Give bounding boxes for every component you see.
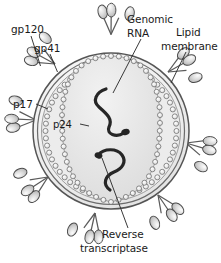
label-genomic-rna-line1: Genomic: [127, 13, 173, 25]
p24-bead: [156, 144, 161, 149]
leader-gp41: [50, 54, 58, 72]
p24-bead: [94, 194, 99, 199]
p24-bead: [153, 159, 158, 164]
p24-bead: [61, 144, 66, 149]
p24-bead: [138, 63, 143, 68]
p24-bead: [86, 59, 91, 64]
p24-bead: [43, 128, 48, 133]
p24-bead: [101, 197, 106, 202]
p24-bead: [156, 97, 161, 102]
p24-bead: [174, 128, 179, 133]
p24-bead: [60, 136, 65, 141]
p24-bead: [69, 75, 74, 80]
p24-bead: [93, 56, 98, 61]
p24-bead: [47, 107, 52, 112]
hiv-virion-diagram: gp120 gp41 p17 p24 Genomic RNA Lipid mem…: [0, 0, 221, 263]
p24-bead: [164, 94, 169, 99]
p24-bead: [57, 88, 62, 93]
p24-bead: [130, 191, 135, 196]
p24-bead: [43, 136, 48, 141]
p24-bead: [124, 56, 129, 61]
p24-bead: [79, 63, 84, 68]
p24-bead: [67, 167, 72, 172]
p24-bead: [47, 150, 52, 155]
p24-bead: [60, 105, 65, 110]
p24-bead: [170, 150, 175, 155]
p24-bead: [154, 89, 159, 94]
p24-bead: [172, 143, 177, 148]
p24-bead: [167, 157, 172, 162]
p24-bead: [157, 136, 162, 141]
p24-bead: [157, 120, 162, 125]
p24-bead: [170, 107, 175, 112]
p24-bead: [172, 114, 177, 119]
p24-bead: [137, 186, 142, 191]
p24-bead: [45, 114, 50, 119]
label-lipid-membrane-line1: Lipid: [176, 26, 201, 38]
label-genomic-rna-line2: RNA: [127, 27, 150, 39]
p24-bead: [160, 169, 165, 174]
label-reverse-transcriptase-line1: Reverse: [102, 228, 144, 240]
p24-bead: [87, 191, 92, 196]
p24-bead: [131, 59, 136, 64]
p24-bead: [148, 75, 153, 80]
p24-bead: [167, 100, 172, 105]
label-gp120: gp120: [11, 23, 44, 35]
p24-bead: [53, 163, 58, 168]
p24-bead: [142, 180, 147, 185]
p24-bead: [71, 174, 76, 179]
p24-bead: [109, 54, 114, 59]
p24-bead: [101, 54, 106, 59]
p24-bead: [149, 180, 154, 185]
p24-bead: [63, 89, 68, 94]
p24-bead: [155, 152, 160, 157]
p24-bead: [157, 105, 162, 110]
p24-bead: [164, 163, 169, 168]
p24-bead: [64, 159, 69, 164]
p24-bead: [49, 157, 54, 162]
p24-bead: [68, 180, 73, 185]
p24-bead: [152, 82, 157, 87]
p24-bead: [62, 175, 67, 180]
p24-bead: [43, 121, 48, 126]
label-gp41: gp41: [34, 42, 60, 54]
p24-bead: [146, 174, 151, 179]
p24-bead: [57, 169, 62, 174]
p24-bead: [45, 143, 50, 148]
p24-bead: [144, 68, 149, 73]
p24-bead: [116, 54, 121, 59]
p24-bead: [123, 194, 128, 199]
virion-figure: gp120 gp41 p17 p24 Genomic RNA Lipid mem…: [0, 0, 221, 263]
label-p24: p24: [53, 119, 72, 130]
p24-bead: [155, 175, 160, 180]
p24-bead: [53, 94, 58, 99]
p24-bead: [61, 97, 66, 102]
p24-bead: [160, 88, 165, 93]
p24-bead: [60, 113, 65, 118]
p24-bead: [49, 100, 54, 105]
p24-bead: [174, 121, 179, 126]
p24-bead: [174, 136, 179, 141]
p24-bead: [109, 200, 114, 205]
label-p17: p17: [13, 98, 33, 110]
p24-bead: [150, 167, 155, 172]
label-lipid-membrane-line2: membrane: [161, 40, 218, 52]
label-reverse-transcriptase-line2: transcriptase: [80, 242, 148, 254]
p24-bead: [157, 113, 162, 118]
p24-bead: [73, 68, 78, 73]
p24-bead: [65, 82, 70, 87]
p24-bead: [80, 186, 85, 191]
p24-bead: [75, 180, 80, 185]
p24-bead: [157, 128, 162, 133]
p24-bead: [62, 152, 67, 157]
